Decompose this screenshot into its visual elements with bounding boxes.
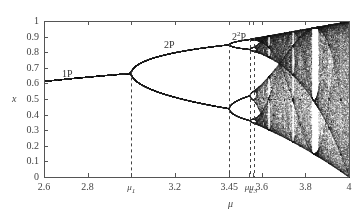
y-tick-label: 0.6 xyxy=(0,78,39,88)
y-axis-label: x xyxy=(12,94,16,104)
annotation-22p-tail: P xyxy=(241,31,247,42)
annotation-22p: 22P xyxy=(232,30,246,42)
annotation-1p: 1P xyxy=(62,68,73,79)
y-tick-label: 0 xyxy=(0,172,39,182)
x-tick-label: μ1 xyxy=(127,182,135,196)
y-tick-label: 0.1 xyxy=(0,156,39,166)
y-tick-label: 0.5 xyxy=(0,94,39,104)
x-tick-label: 3.8 xyxy=(299,182,312,192)
x-tick-label: 4 xyxy=(347,182,352,192)
x-tick-label: 3.6 xyxy=(256,182,269,192)
x-axis-label: μ xyxy=(228,199,233,209)
annotation-2p: 2P xyxy=(164,39,175,50)
x-tick-label: 2.8 xyxy=(81,182,94,192)
x-tick-label: 3.2 xyxy=(168,182,181,192)
y-tick-label: 0.8 xyxy=(0,47,39,57)
x-tick-label: 3.45 xyxy=(220,182,238,192)
y-tick-label: 0.4 xyxy=(0,110,39,120)
x-tick-label: 2.6 xyxy=(38,182,51,192)
y-tick-label: 0.7 xyxy=(0,63,39,73)
y-tick-label: 0.9 xyxy=(0,32,39,42)
y-tick-label: 1 xyxy=(0,16,39,26)
y-tick-label: 0.3 xyxy=(0,125,39,135)
y-tick-label: 0.2 xyxy=(0,141,39,151)
